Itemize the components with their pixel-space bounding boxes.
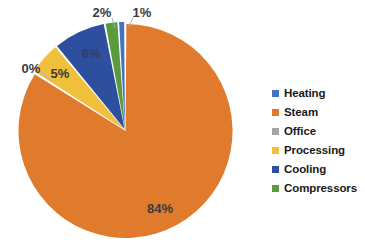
legend-item-label: Office [284, 126, 316, 138]
legend-item-steam[interactable]: Steam [272, 103, 364, 122]
pie-label-steam: 84% [147, 201, 173, 216]
legend-item-cooling[interactable]: Cooling [272, 160, 364, 179]
pie-label-heating: 1% [133, 5, 152, 20]
pie-label-office: 0% [22, 61, 41, 76]
legend-swatch-icon [272, 109, 279, 116]
legend-swatch-icon [272, 185, 279, 192]
legend-item-office[interactable]: Office [272, 122, 364, 141]
legend-swatch-icon [272, 128, 279, 135]
legend-item-label: Cooling [284, 164, 326, 176]
legend-item-heating[interactable]: Heating [272, 84, 364, 103]
chart-legend: HeatingSteamOfficeProcessingCoolingCompr… [272, 84, 364, 198]
legend-swatch-icon [272, 90, 279, 97]
legend-item-processing[interactable]: Processing [272, 141, 364, 160]
pie-label-compressors: 2% [93, 5, 112, 20]
legend-item-label: Steam [284, 107, 318, 119]
legend-swatch-icon [272, 147, 279, 154]
pie-label-cooling: 8% [82, 46, 101, 61]
pie-label-processing: 5% [51, 66, 70, 81]
legend-item-label: Processing [284, 145, 345, 157]
legend-item-compressors[interactable]: Compressors [272, 179, 364, 198]
legend-item-label: Heating [284, 88, 325, 100]
legend-item-label: Compressors [284, 183, 357, 195]
pie-chart: 0% 5% 8% 2% 1% 84% HeatingSteamOfficePro… [0, 0, 365, 250]
legend-swatch-icon [272, 166, 279, 173]
pie-slice-group [17, 22, 233, 238]
